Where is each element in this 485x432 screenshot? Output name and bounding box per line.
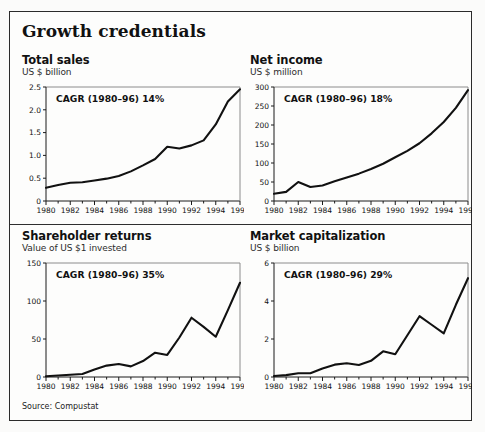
x-tick-label: 1992 <box>410 206 429 215</box>
x-tick-label: 1990 <box>386 206 405 215</box>
x-tick-label: 1994 <box>206 382 225 391</box>
x-tick-label: 1982 <box>289 382 308 391</box>
line-chart: 0246198019821984198619881990199219941996… <box>250 257 472 395</box>
line-chart: 00.51.01.52.02.5198019821984198619881990… <box>22 81 244 219</box>
x-tick-label: 1988 <box>133 206 152 215</box>
y-tick-label: 50 <box>259 178 269 187</box>
x-tick-label: 1980 <box>264 206 283 215</box>
y-tick-label: 1.0 <box>29 151 41 160</box>
page-title: Growth credentials <box>22 21 206 41</box>
cagr-annotation: CAGR (1980–96) 14% <box>56 93 164 104</box>
cagr-annotation: CAGR (1980–96) 29% <box>284 269 392 280</box>
y-tick-label: 0 <box>36 197 41 206</box>
x-tick-label: 1986 <box>109 206 128 215</box>
chart-panel-net-income: Net income US $ million 0501001502002503… <box>250 54 472 224</box>
x-tick-label: 1982 <box>289 206 308 215</box>
row-divider <box>10 224 471 225</box>
x-tick-label: 1986 <box>337 382 356 391</box>
cagr-annotation: CAGR (1980–96) 35% <box>56 269 164 280</box>
x-tick-label: 1982 <box>61 206 80 215</box>
y-tick-label: 150 <box>255 140 270 149</box>
chart-canvas-shareholder-returns: 0501001501980198219841986198819901992199… <box>22 257 244 395</box>
x-tick-label: 1980 <box>36 382 55 391</box>
chart-panel-total-sales: Total sales US $ billion 00.51.01.52.02.… <box>22 54 244 224</box>
y-tick-label: 200 <box>255 121 270 130</box>
chart-panel-shareholder-returns: Shareholder returns Value of US $1 inves… <box>22 230 244 400</box>
chart-title: Net income <box>250 54 472 66</box>
x-tick-label: 1994 <box>206 206 225 215</box>
exhibit-page: Growth credentials Total sales US $ bill… <box>0 0 485 432</box>
x-tick-label: 1986 <box>109 382 128 391</box>
chart-canvas-net-income: 0501001502002503001980198219841986198819… <box>250 81 472 219</box>
x-tick-label: 1990 <box>158 382 177 391</box>
series-line <box>46 283 240 376</box>
x-tick-label: 1980 <box>264 382 283 391</box>
x-tick-label: 1982 <box>61 382 80 391</box>
y-tick-label: 2.0 <box>29 106 41 115</box>
y-tick-label: 300 <box>255 83 270 92</box>
y-tick-label: 1.5 <box>29 128 41 137</box>
x-tick-label: 1996 <box>230 382 244 391</box>
x-tick-label: 1992 <box>410 382 429 391</box>
x-tick-label: 1984 <box>313 382 332 391</box>
y-tick-label: 0 <box>36 373 41 382</box>
x-tick-label: 1984 <box>313 206 332 215</box>
y-tick-label: 2.5 <box>29 83 41 92</box>
y-tick-label: 4 <box>264 297 269 306</box>
line-chart: 0501001501980198219841986198819901992199… <box>22 257 244 395</box>
x-tick-label: 1996 <box>230 206 244 215</box>
x-tick-label: 1988 <box>361 382 380 391</box>
y-tick-label: 100 <box>27 297 42 306</box>
chart-panel-market-capitalization: Market capitalization US $ billion 02461… <box>250 230 472 400</box>
y-tick-label: 6 <box>264 259 269 268</box>
y-tick-label: 250 <box>255 102 270 111</box>
cagr-annotation: CAGR (1980–96) 18% <box>284 93 392 104</box>
series-line <box>274 90 468 194</box>
y-tick-label: 2 <box>264 335 269 344</box>
x-tick-label: 1988 <box>133 382 152 391</box>
x-tick-label: 1990 <box>158 206 177 215</box>
series-line <box>46 89 240 188</box>
x-tick-label: 1984 <box>85 206 104 215</box>
x-tick-label: 1996 <box>458 206 472 215</box>
source-note: Source: Compustat <box>22 402 98 411</box>
chart-title: Shareholder returns <box>22 230 244 242</box>
y-tick-label: 100 <box>255 159 270 168</box>
chart-subtitle: Value of US $1 invested <box>22 243 244 254</box>
y-tick-label: 50 <box>31 335 41 344</box>
y-tick-label: 0.5 <box>29 174 41 183</box>
y-tick-label: 150 <box>27 259 42 268</box>
chart-title: Total sales <box>22 54 244 66</box>
chart-axes <box>46 87 240 201</box>
chart-subtitle: US $ million <box>250 67 472 78</box>
series-line <box>274 278 468 376</box>
y-tick-label: 0 <box>264 197 269 206</box>
chart-title: Market capitalization <box>250 230 472 242</box>
x-tick-label: 1986 <box>337 206 356 215</box>
line-chart: 0501001502002503001980198219841986198819… <box>250 81 472 219</box>
chart-subtitle: US $ billion <box>250 243 472 254</box>
exhibit-frame: Growth credentials Total sales US $ bill… <box>9 11 472 421</box>
chart-canvas-total-sales: 00.51.01.52.02.5198019821984198619881990… <box>22 81 244 219</box>
x-tick-label: 1988 <box>361 206 380 215</box>
x-tick-label: 1994 <box>434 206 453 215</box>
chart-subtitle: US $ billion <box>22 67 244 78</box>
chart-canvas-market-capitalization: 0246198019821984198619881990199219941996… <box>250 257 472 395</box>
x-tick-label: 1990 <box>386 382 405 391</box>
x-tick-label: 1994 <box>434 382 453 391</box>
x-tick-label: 1992 <box>182 382 201 391</box>
x-tick-label: 1996 <box>458 382 472 391</box>
x-tick-label: 1984 <box>85 382 104 391</box>
x-tick-label: 1992 <box>182 206 201 215</box>
x-tick-label: 1980 <box>36 206 55 215</box>
y-tick-label: 0 <box>264 373 269 382</box>
